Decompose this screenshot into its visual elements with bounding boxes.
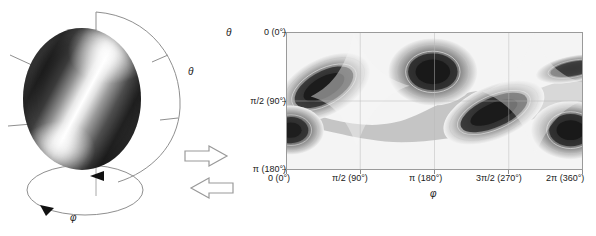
xtick-label-180: π (180°) — [409, 173, 442, 183]
arc-tick-upper-icon — [152, 55, 168, 62]
arc-tick-lower-icon — [160, 118, 178, 120]
y-axis-label: θ — [226, 27, 231, 38]
x-axis-label: φ — [430, 188, 437, 199]
sphere-phi-label: φ — [70, 212, 77, 223]
sphere-theta-label: θ — [188, 66, 193, 77]
xtick-label-270: 3π/2 (270°) — [476, 173, 522, 183]
plot-area — [286, 32, 583, 170]
contour-field — [286, 32, 583, 170]
xtick-label-90: π/2 (90°) — [332, 173, 368, 183]
contour-plot-panel: 0 (0°) π/2 (90°) π (180°) 0 (0°) π/2 (90… — [210, 0, 596, 236]
phi-arrowhead-top-icon — [90, 171, 104, 181]
ytick-label-0: 0 (0°) — [264, 27, 286, 37]
xtick-label-360: 2π (360°) — [546, 173, 584, 183]
lobe-phi180 — [388, 38, 477, 105]
sphere-outline — [23, 28, 141, 170]
ytick-label-90: π/2 (90°) — [250, 96, 286, 106]
xtick-label-0: 0 (0°) — [268, 173, 290, 183]
sphere-panel: θ φ — [0, 0, 210, 236]
figure-root: θ φ — [0, 0, 596, 236]
